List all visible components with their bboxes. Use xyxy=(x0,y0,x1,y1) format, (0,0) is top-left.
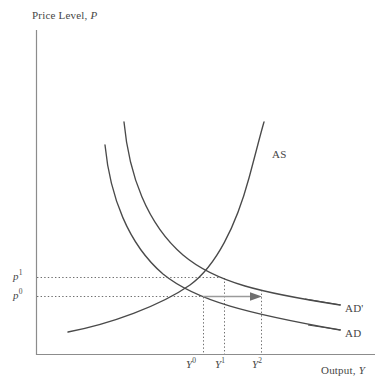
curve-ad xyxy=(105,145,340,330)
output-tick-y2: Y2 xyxy=(252,358,262,370)
y-axis-title-text: Price Level, xyxy=(32,9,88,21)
price-tick-p1: p1 xyxy=(13,270,23,282)
output-tick-y0-sup: 0 xyxy=(192,356,196,365)
x-axis-title-symbol: Y xyxy=(359,364,365,376)
curve-label-ad: AD xyxy=(345,327,361,339)
as-ad-diagram xyxy=(0,0,389,386)
output-tick-y0: Y0 xyxy=(186,358,196,370)
x-axis-title: Output, Y xyxy=(321,364,365,376)
price-tick-p0-sup: 0 xyxy=(19,287,23,296)
chart-canvas: Price Level, P Output, Y p1 p0 Y0 Y1 Y2 … xyxy=(0,0,389,386)
y-axis-title-symbol: P xyxy=(91,9,98,21)
price-tick-p1-sup: 1 xyxy=(19,268,23,277)
curve-label-ad-prime: AD' xyxy=(345,302,363,314)
output-tick-y1: Y1 xyxy=(215,358,225,370)
output-tick-y1-sup: 1 xyxy=(221,356,225,365)
x-axis-title-text: Output, xyxy=(321,364,356,376)
y-axis-title: Price Level, P xyxy=(32,9,97,21)
price-tick-p0: p0 xyxy=(13,289,23,301)
curve-as xyxy=(68,122,264,332)
output-tick-y2-sup: 2 xyxy=(258,356,262,365)
leader-line-ad-prime xyxy=(305,299,341,305)
leader-line-ad xyxy=(308,325,341,330)
curve-label-as: AS xyxy=(272,148,286,160)
